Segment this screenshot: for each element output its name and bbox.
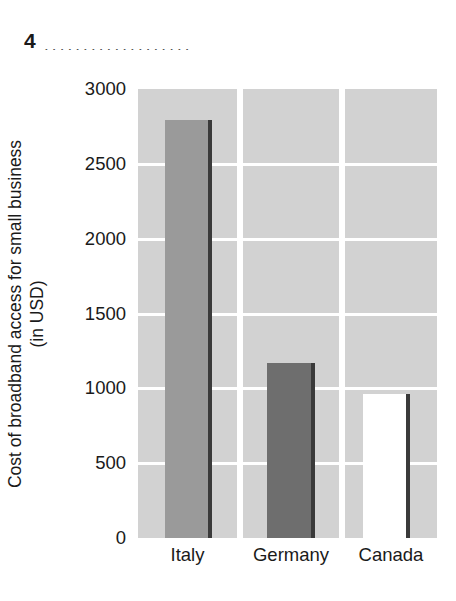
gridline xyxy=(243,238,339,241)
x-tick-label-germany: Germany xyxy=(243,543,339,567)
y-axis-title-line-1: Cost of broadband access for small busin… xyxy=(5,139,25,487)
panel-italy xyxy=(138,89,237,538)
y-axis-title-line-2: (in USD) xyxy=(26,139,48,487)
gridline xyxy=(243,313,339,316)
bar-canada-body xyxy=(363,394,406,538)
y-tick-label: 1500 xyxy=(85,305,126,323)
gridline xyxy=(345,163,437,166)
bar-chart: Cost of broadband access for small busin… xyxy=(0,0,456,601)
panel-germany xyxy=(243,89,339,538)
y-tick-label: 1000 xyxy=(85,379,126,397)
bar-italy-body xyxy=(165,120,208,538)
y-tick-label: 0 xyxy=(116,529,126,547)
bar-canada-edge xyxy=(406,394,410,538)
bar-italy xyxy=(165,120,212,538)
y-axis-title: Cost of broadband access for small busin… xyxy=(0,89,52,538)
x-tick-label-italy: Italy xyxy=(138,543,237,567)
bar-germany xyxy=(267,363,315,538)
x-axis-tick-labels: Italy Germany Canada xyxy=(138,543,437,577)
gridline xyxy=(345,238,437,241)
y-tick-label: 3000 xyxy=(85,80,126,98)
plot-area xyxy=(138,89,437,538)
bar-canada xyxy=(363,394,410,538)
panel-canada xyxy=(345,89,437,538)
gridline xyxy=(345,313,437,316)
y-tick-label: 2500 xyxy=(85,155,126,173)
bar-italy-edge xyxy=(208,120,212,538)
y-tick-label: 2000 xyxy=(85,230,126,248)
y-axis-tick-labels: 3000 2500 2000 1500 1000 500 0 xyxy=(52,0,134,601)
x-tick-label-canada: Canada xyxy=(345,543,437,567)
gridline xyxy=(243,163,339,166)
bar-germany-edge xyxy=(311,363,315,538)
gridline xyxy=(345,387,437,390)
bar-germany-body xyxy=(267,363,311,538)
y-tick-label: 500 xyxy=(95,454,126,472)
